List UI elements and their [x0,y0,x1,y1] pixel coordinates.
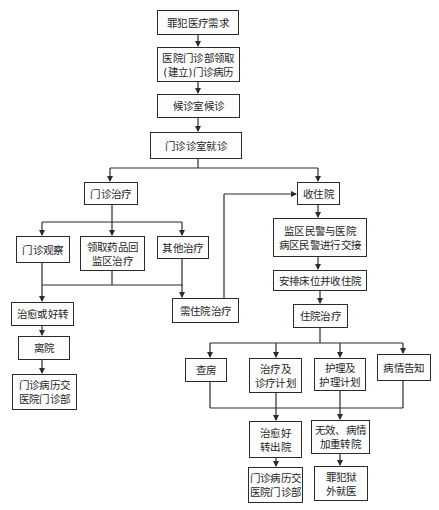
node-label: 监区民警与医院 [284,224,356,238]
node-label: 医院门诊部 [19,392,71,406]
node-label: 治愈或好转 [17,307,69,321]
node-label: (建立)门诊病历 [163,65,234,79]
node-label: 护理计划 [319,375,360,389]
node-label: 监区治疗 [92,254,133,268]
node-label: 安排床位并收住院 [279,274,361,288]
node-label: 治疗及 [260,362,291,376]
node-leave-hospital: 离院 [18,336,70,360]
node-label: 治愈好 [260,426,291,440]
node-cured-discharge: 治愈好 转出院 [249,421,302,458]
node-label: 门诊病历交 [250,471,302,485]
node-take-medicine-back: 领取药品回 监区治疗 [80,236,145,271]
node-cured-or-improved: 治愈或好转 [11,302,74,326]
node-label: 门诊观察 [22,243,63,257]
node-outpatient-treatment: 门诊治疗 [84,182,138,205]
node-waiting-room: 候诊室候诊 [157,94,240,118]
node-return-record-right: 门诊病历交 医院门诊部 [248,467,303,503]
node-label: 外就医 [326,484,357,498]
node-label: 查房 [196,363,217,377]
node-label: 收住院 [303,187,334,201]
node-label: 住院治疗 [300,309,341,323]
node-outside-prison-care: 罪犯狱 外就医 [314,466,368,501]
node-condition-notice: 病情告知 [377,354,431,381]
node-label: 门诊治疗 [90,187,131,201]
node-label: 罪犯医疗需求 [167,16,229,30]
node-label: 门诊诊室就诊 [165,139,227,153]
node-label: 其他治疗 [162,241,203,255]
node-nursing-plan: 护理及 护理计划 [314,358,366,391]
node-label: 领取药品回 [87,240,139,254]
node-clinic-consultation: 门诊诊室就诊 [150,132,242,159]
node-label: 无效、病情 [315,423,367,437]
node-police-handover: 监区民警与医院 病区民警进行交接 [273,218,367,257]
node-inpatient-treatment: 住院治疗 [293,304,348,328]
node-treatment-plan: 治疗及 诊疗计划 [249,358,302,393]
node-ward-round: 查房 [185,358,227,382]
flowchart-canvas: 罪犯医疗需求 医院门诊部领取 (建立)门诊病历 候诊室候诊 门诊诊室就诊 门诊治… [0,0,439,510]
node-outpatient-observation: 门诊观察 [16,236,70,263]
node-label: 候诊室候诊 [173,99,225,113]
node-criminal-medical-need: 罪犯医疗需求 [157,10,239,35]
node-label: 病区民警进行交接 [279,238,361,252]
node-label: 需住院治疗 [180,304,232,318]
node-return-record-left: 门诊病历交 医院门诊部 [12,374,77,410]
node-needs-hospitalization: 需住院治疗 [172,298,239,323]
node-label: 门诊病历交 [19,378,71,392]
node-label: 离院 [34,341,55,355]
node-ineffective-transfer: 无效、病情 加重转院 [311,420,370,454]
node-label: 加重转院 [320,437,361,451]
node-label: 罪犯狱 [326,470,357,484]
node-label: 诊疗计划 [255,376,296,390]
node-label: 转出院 [260,440,291,454]
node-label: 护理及 [325,361,356,375]
node-arrange-bed: 安排床位并收住院 [273,270,367,291]
node-admit-hospital: 收住院 [297,182,340,205]
node-label: 医院门诊部 [250,485,302,499]
node-obtain-outpatient-record: 医院门诊部领取 (建立)门诊病历 [157,47,240,82]
node-other-treatment: 其他治疗 [157,236,209,259]
node-label: 医院门诊部领取 [162,51,234,65]
node-label: 病情告知 [383,361,424,375]
